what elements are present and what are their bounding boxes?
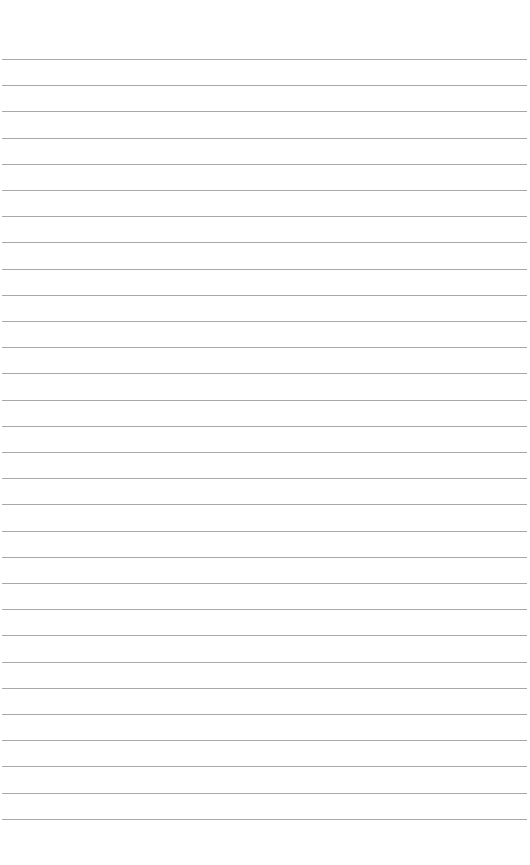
ruled-line [2, 373, 527, 374]
ruled-line [2, 478, 527, 479]
ruled-line [2, 793, 527, 794]
ruled-line [2, 740, 527, 741]
ruled-line [2, 557, 527, 558]
ruled-line [2, 426, 527, 427]
ruled-line [2, 347, 527, 348]
ruled-line [2, 59, 527, 60]
ruled-line [2, 609, 527, 610]
ruled-line [2, 766, 527, 767]
ruled-line [2, 400, 527, 401]
ruled-line [2, 138, 527, 139]
ruled-line [2, 504, 527, 505]
ruled-line [2, 688, 527, 689]
ruled-line [2, 635, 527, 636]
ruled-line [2, 819, 527, 820]
ruled-line [2, 269, 527, 270]
lined-paper-page [0, 0, 530, 865]
ruled-line [2, 295, 527, 296]
ruled-line [2, 452, 527, 453]
ruled-line [2, 714, 527, 715]
ruled-line [2, 164, 527, 165]
ruled-line [2, 662, 527, 663]
ruled-line [2, 321, 527, 322]
ruled-line [2, 583, 527, 584]
ruled-line [2, 242, 527, 243]
ruled-line [2, 111, 527, 112]
ruled-line [2, 190, 527, 191]
ruled-line [2, 85, 527, 86]
ruled-line [2, 531, 527, 532]
ruled-line [2, 216, 527, 217]
